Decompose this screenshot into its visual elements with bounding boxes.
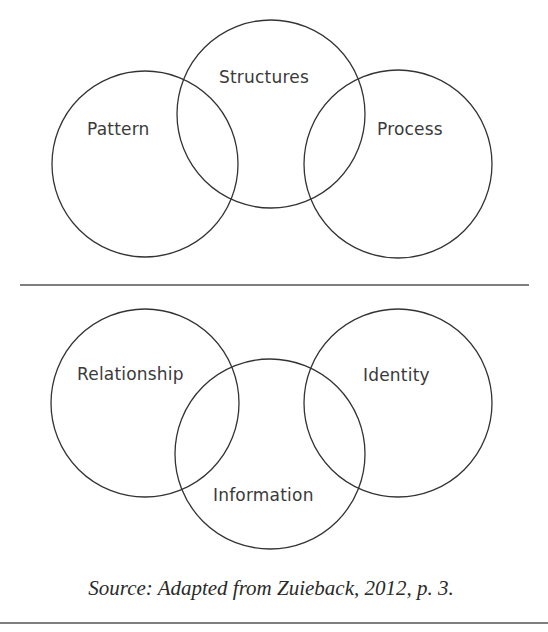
identity-label: Identity bbox=[363, 365, 430, 385]
process-circle bbox=[304, 70, 492, 258]
pattern-circle bbox=[52, 71, 238, 257]
information-label: Information bbox=[213, 485, 314, 505]
structures-label: Structures bbox=[219, 67, 309, 87]
identity-circle bbox=[304, 309, 492, 497]
relationship-label: Relationship bbox=[77, 364, 184, 384]
relationship-circle bbox=[51, 309, 239, 497]
structures-circle bbox=[177, 20, 365, 208]
bottom-venn-diagram: Relationship Information Identity bbox=[51, 309, 492, 549]
source-caption: Source: Adapted from Zuieback, 2012, p. … bbox=[88, 576, 454, 600]
process-label: Process bbox=[377, 119, 443, 139]
pattern-label: Pattern bbox=[87, 119, 150, 139]
top-venn-diagram: Pattern Structures Process bbox=[52, 20, 492, 258]
information-circle bbox=[175, 359, 365, 549]
venn-figure: Pattern Structures Process Relationship … bbox=[0, 0, 548, 632]
